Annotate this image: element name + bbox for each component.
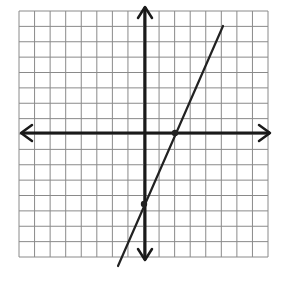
x-intercept-point bbox=[172, 130, 178, 136]
axes bbox=[21, 7, 270, 260]
graphed-line bbox=[118, 26, 223, 266]
coordinate-plane bbox=[0, 0, 283, 282]
y-intercept-point bbox=[141, 201, 147, 207]
plotted-line bbox=[118, 26, 223, 266]
